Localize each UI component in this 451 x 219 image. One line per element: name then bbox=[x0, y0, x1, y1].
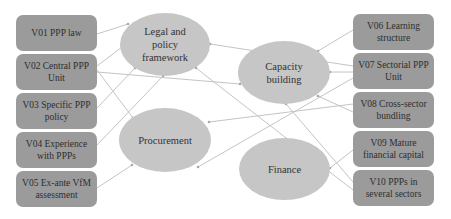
variable-label: V03 Specific PPP policy bbox=[19, 99, 94, 123]
variable-label: V01 PPP law bbox=[31, 27, 81, 39]
variable-box-v08: V08 Cross-sector bundling bbox=[353, 92, 434, 128]
variable-label: V06 Learning structure bbox=[356, 20, 431, 44]
variable-label: V08 Cross-sector bundling bbox=[356, 98, 431, 122]
variable-label: V07 Sectorial PPP Unit bbox=[356, 59, 431, 83]
ppp-factor-diagram: V01 PPP law V02 Central PPP Unit V03 Spe… bbox=[0, 0, 451, 219]
factor-procurement: Procurement bbox=[119, 108, 211, 172]
factor-capacity-building: Capacity building bbox=[238, 41, 330, 104]
variable-box-v03: V03 Specific PPP policy bbox=[16, 93, 97, 129]
factor-label: Finance bbox=[268, 163, 301, 176]
factor-label: Legal and policy framework bbox=[135, 25, 195, 64]
variable-label: V09 Mature financial capital bbox=[356, 137, 431, 161]
variable-label: V04 Experience with PPPs bbox=[19, 138, 94, 162]
variable-box-v02: V02 Central PPP Unit bbox=[16, 54, 97, 90]
variable-label: V02 Central PPP Unit bbox=[19, 60, 94, 84]
variable-box-v06: V06 Learning structure bbox=[353, 14, 434, 50]
factor-label: Capacity building bbox=[259, 60, 309, 86]
variable-box-v04: V04 Experience with PPPs bbox=[16, 132, 97, 168]
variable-box-v05: V05 Ex-ante VfM assessment bbox=[16, 171, 97, 207]
variable-label: V05 Ex-ante VfM assessment bbox=[19, 177, 94, 201]
factor-label: Procurement bbox=[138, 134, 192, 147]
variable-label: V10 PPPs in several sectors bbox=[356, 176, 431, 200]
variable-box-v07: V07 Sectorial PPP Unit bbox=[353, 53, 434, 89]
variable-box-v09: V09 Mature financial capital bbox=[353, 131, 434, 167]
variable-box-v10: V10 PPPs in several sectors bbox=[353, 170, 434, 206]
variable-box-v01: V01 PPP law bbox=[16, 15, 97, 51]
factor-legal-policy-framework: Legal and policy framework bbox=[120, 13, 210, 76]
factor-finance: Finance bbox=[239, 138, 330, 200]
